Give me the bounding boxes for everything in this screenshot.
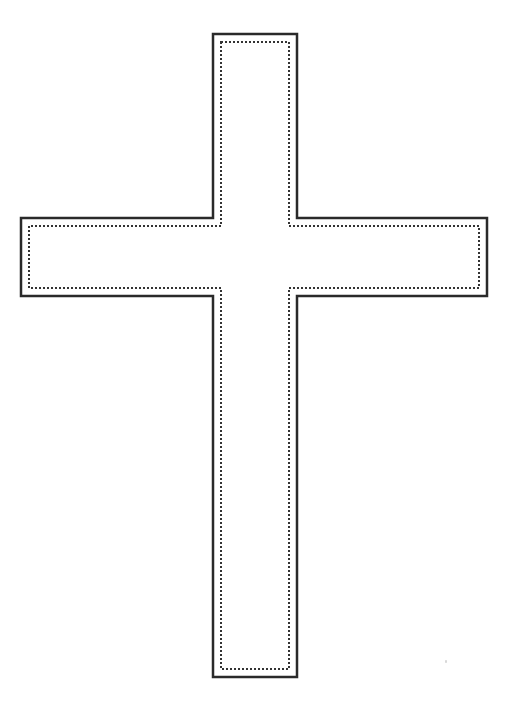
dust-speck xyxy=(445,660,447,663)
template-canvas xyxy=(0,0,511,713)
cross-figure xyxy=(0,0,511,713)
